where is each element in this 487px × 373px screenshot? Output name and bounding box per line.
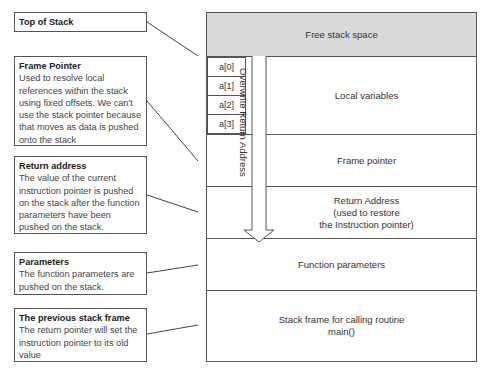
overwrite-arrow-icon [0, 0, 487, 373]
overwrite-arrow-label: Overwrite Return Address [238, 68, 249, 177]
